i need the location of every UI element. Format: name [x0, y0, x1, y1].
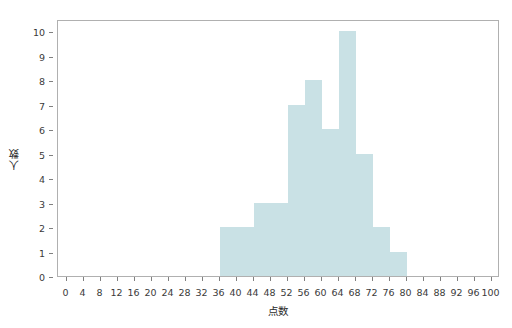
y-tick-mark — [49, 204, 53, 205]
histogram-figure: 人数 012345678910 点数 048121620242832364044… — [0, 0, 512, 328]
y-tick-label: 4 — [39, 174, 45, 185]
y-tick-label: 1 — [39, 247, 45, 258]
y-tick-label: 8 — [39, 76, 45, 87]
y-tick-mark — [49, 155, 53, 156]
x-tick-label: 0 — [62, 287, 68, 298]
histogram-bar — [237, 227, 254, 276]
x-tick-label: 12 — [110, 287, 122, 298]
x-tick-label: 44 — [246, 287, 258, 298]
y-tick-label: 5 — [39, 149, 45, 160]
x-tick-label: 28 — [178, 287, 190, 298]
histogram-bar — [390, 252, 407, 276]
x-tick-mark — [83, 277, 84, 281]
histogram-bar — [356, 154, 373, 276]
y-tick-label: 7 — [39, 100, 45, 111]
y-axis-title: 人数 — [6, 148, 21, 170]
x-tick-mark — [321, 277, 322, 281]
y-tick-label: 10 — [33, 27, 45, 38]
x-tick-label: 100 — [481, 287, 499, 298]
histogram-bar — [305, 80, 322, 276]
x-tick-mark — [117, 277, 118, 281]
plot-area — [57, 20, 499, 277]
x-tick-mark — [66, 277, 67, 281]
x-tick-label: 20 — [144, 287, 156, 298]
x-tick-label: 36 — [212, 287, 224, 298]
x-tick-mark — [151, 277, 152, 281]
histogram-bars — [58, 21, 498, 276]
histogram-bar — [339, 31, 356, 276]
y-tick-mark — [49, 228, 53, 229]
x-tick-label: 60 — [314, 287, 326, 298]
histogram-bar — [288, 105, 305, 276]
x-axis-title: 点数 — [268, 303, 288, 318]
y-tick-mark — [49, 32, 53, 33]
histogram-bar — [254, 203, 271, 276]
x-tick-label: 48 — [263, 287, 275, 298]
x-tick-mark — [406, 277, 407, 281]
x-tick-mark — [100, 277, 101, 281]
x-tick-mark — [270, 277, 271, 281]
x-tick-label: 76 — [382, 287, 394, 298]
x-tick-mark — [372, 277, 373, 281]
y-tick-label: 3 — [39, 198, 45, 209]
y-tick-label: 9 — [39, 51, 45, 62]
x-tick-label: 88 — [433, 287, 445, 298]
x-tick-label: 8 — [96, 287, 102, 298]
histogram-bar — [373, 227, 390, 276]
x-tick-label: 84 — [416, 287, 428, 298]
x-tick-label: 68 — [348, 287, 360, 298]
y-tick-label: 6 — [39, 125, 45, 136]
histogram-bar — [271, 203, 288, 276]
x-tick-label: 96 — [467, 287, 479, 298]
x-tick-mark — [287, 277, 288, 281]
x-tick-mark — [440, 277, 441, 281]
x-tick-mark — [219, 277, 220, 281]
x-tick-label: 4 — [79, 287, 85, 298]
y-tick-mark — [49, 130, 53, 131]
x-tick-mark — [168, 277, 169, 281]
histogram-bar — [220, 227, 237, 276]
y-tick-mark — [49, 106, 53, 107]
x-tick-mark — [338, 277, 339, 281]
x-tick-label: 32 — [195, 287, 207, 298]
x-tick-label: 64 — [331, 287, 343, 298]
y-tick-label: 2 — [39, 223, 45, 234]
y-tick-mark — [49, 179, 53, 180]
x-tick-mark — [423, 277, 424, 281]
x-tick-mark — [253, 277, 254, 281]
x-tick-label: 52 — [280, 287, 292, 298]
x-tick-mark — [389, 277, 390, 281]
x-tick-label: 56 — [297, 287, 309, 298]
x-tick-mark — [134, 277, 135, 281]
x-axis: 点数 0481216202428323640444852566064687276… — [0, 277, 512, 328]
x-tick-label: 40 — [229, 287, 241, 298]
x-tick-mark — [202, 277, 203, 281]
y-tick-mark — [49, 253, 53, 254]
y-tick-mark — [49, 81, 53, 82]
y-tick-mark — [49, 57, 53, 58]
x-tick-mark — [457, 277, 458, 281]
x-tick-mark — [491, 277, 492, 281]
x-tick-label: 80 — [399, 287, 411, 298]
x-tick-label: 24 — [161, 287, 173, 298]
x-tick-label: 92 — [450, 287, 462, 298]
x-tick-mark — [474, 277, 475, 281]
x-tick-mark — [304, 277, 305, 281]
x-tick-mark — [185, 277, 186, 281]
x-tick-mark — [355, 277, 356, 281]
x-tick-mark — [236, 277, 237, 281]
x-tick-label: 72 — [365, 287, 377, 298]
x-tick-label: 16 — [127, 287, 139, 298]
histogram-bar — [322, 129, 339, 276]
